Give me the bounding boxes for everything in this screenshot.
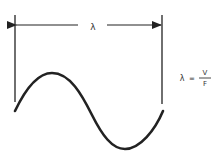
formula-numerator: V [203, 69, 208, 77]
sine-wave [15, 73, 163, 149]
wavelength-formula: λ = V F [180, 69, 211, 88]
wavelength-diagram: λ λ = V F [0, 0, 222, 158]
formula-lhs: λ [180, 74, 185, 83]
formula-denominator: F [203, 80, 207, 88]
wavelength-label: λ [90, 22, 96, 32]
formula-equals: = [189, 75, 195, 83]
